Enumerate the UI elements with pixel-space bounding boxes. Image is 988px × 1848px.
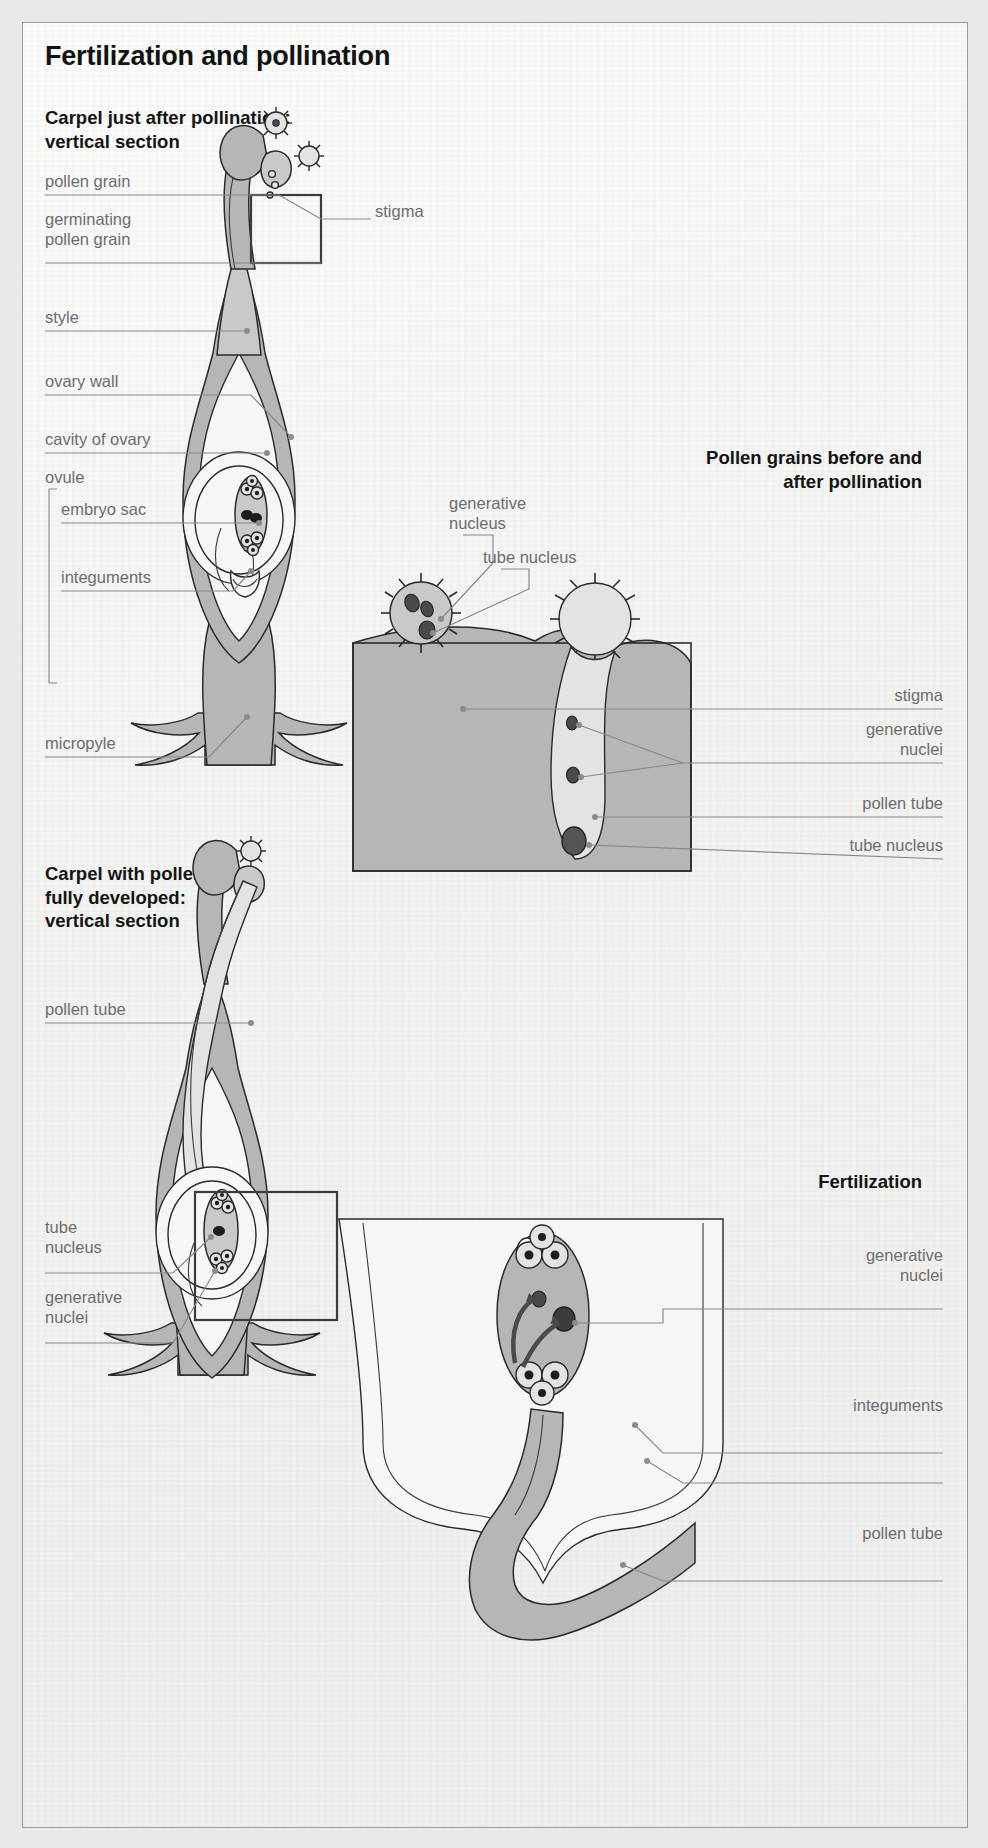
label-integuments-fig4: integuments — [643, 1395, 943, 1415]
figure-carpel-after-pollination — [131, 107, 347, 765]
label-stigma-fig2: stigma — [643, 685, 943, 705]
label-tube-nucleus-fig3: tube nucleus — [45, 1217, 102, 1257]
label-pollen-tube-fig4: pollen tube — [643, 1523, 943, 1543]
label-pollen-tube-fig2: pollen tube — [643, 793, 943, 813]
label-micropyle: micropyle — [45, 733, 116, 753]
label-germinating-pollen-grain: germinating pollen grain — [45, 209, 131, 249]
figure-carpel-pollen-tube — [104, 836, 337, 1378]
label-generative-nuclei-fig2: generative nuclei — [643, 719, 943, 759]
label-stigma-fig1: stigma — [375, 201, 424, 221]
label-embryo-sac: embryo sac — [61, 499, 146, 519]
label-generative-nuclei-fig4: generative nuclei — [643, 1245, 943, 1285]
label-tube-nucleus-fig2a: tube nucleus — [483, 547, 577, 567]
label-ovary-wall: ovary wall — [45, 371, 118, 391]
label-ovule: ovule — [45, 467, 84, 487]
label-generative-nucleus: generative nucleus — [449, 493, 526, 533]
label-cavity-of-ovary: cavity of ovary — [45, 429, 150, 449]
label-integuments-fig1: integuments — [61, 567, 151, 587]
label-pollen-tube-fig3: pollen tube — [45, 999, 126, 1019]
label-style: style — [45, 307, 79, 327]
label-tube-nucleus-fig2b: tube nucleus — [643, 835, 943, 855]
label-pollen-grain: pollen grain — [45, 171, 130, 191]
label-generative-nuclei-fig3: generative nuclei — [45, 1287, 122, 1327]
illustrations — [23, 23, 967, 1827]
figure-pollen-grains — [353, 573, 691, 871]
paper-sheet: Fertilization and pollination Carpel jus… — [22, 22, 968, 1828]
diagram-page: Fertilization and pollination Carpel jus… — [0, 0, 988, 1848]
